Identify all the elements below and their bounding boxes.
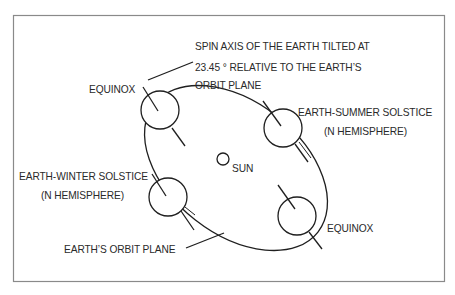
spin-axis-label-line2: 23.45 ° RELATIVE TO THE EARTH’S xyxy=(195,62,362,73)
summer-solstice-label-line1: EARTH-SUMMER SOLSTICE xyxy=(298,107,432,118)
orbit-plane-label: EARTH’S ORBIT PLANE xyxy=(64,244,176,255)
winter-solstice-label-line2: (N HEMISPHERE) xyxy=(41,190,124,201)
equinox-top-label: EQUINOX xyxy=(89,84,136,95)
earth-orbit-diagram: SPIN AXIS OF THE EARTH TILTED AT 23.45 °… xyxy=(0,0,455,295)
sun-label: SUN xyxy=(232,163,253,174)
summer-solstice-label-line2: (N HEMISPHERE) xyxy=(324,126,407,137)
spin-axis-label-line1: SPIN AXIS OF THE EARTH TILTED AT xyxy=(195,41,370,52)
equinox-bottom-label: EQUINOX xyxy=(327,223,374,234)
winter-solstice-label-line1: EARTH-WINTER SOLSTICE xyxy=(19,171,148,182)
diagram-frame xyxy=(14,16,445,282)
spin-axis-label-line3: ORBIT PLANE xyxy=(195,80,261,91)
